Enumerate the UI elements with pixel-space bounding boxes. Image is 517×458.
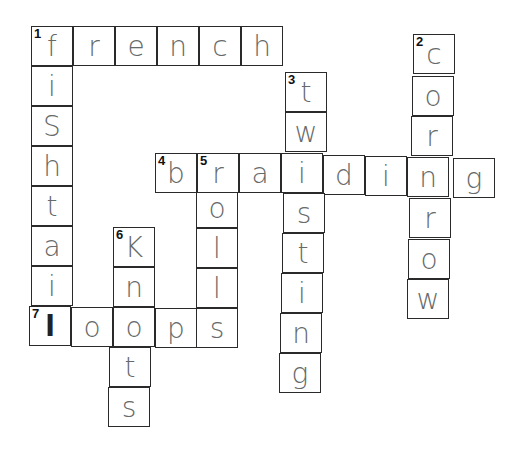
crossword-cell[interactable]: l: [196, 228, 238, 268]
crossword-cell[interactable]: n: [113, 267, 155, 307]
crossword-cell[interactable]: o: [71, 307, 113, 347]
cell-letter: s: [197, 312, 237, 346]
crossword-cell[interactable]: o: [412, 76, 454, 116]
crossword-cell[interactable]: 5r: [197, 153, 239, 193]
cell-letter: K: [114, 231, 154, 265]
cell-letter: r: [198, 157, 238, 191]
crossword-grid: 1frenchiShtai7loops6Kntsoll4b5raiding3tw…: [0, 0, 517, 458]
crossword-cell[interactable]: n: [280, 313, 322, 353]
cell-letter: g: [280, 357, 320, 391]
cell-letter: r: [74, 30, 114, 64]
crossword-cell[interactable]: s: [283, 193, 325, 233]
cell-letter: n: [281, 317, 321, 351]
cell-letter: i: [32, 70, 72, 104]
cell-letter: o: [409, 243, 449, 277]
cell-letter: g: [454, 162, 494, 196]
crossword-cell[interactable]: d: [323, 155, 365, 195]
cell-letter: w: [286, 116, 326, 150]
cell-letter: s: [109, 391, 149, 425]
crossword-cell[interactable]: 2c: [413, 34, 455, 74]
crossword-cell[interactable]: o: [196, 188, 238, 228]
crossword-cell[interactable]: t: [31, 186, 73, 226]
crossword-cell[interactable]: 7l: [29, 306, 71, 346]
cell-letter: o: [197, 192, 237, 226]
crossword-cell[interactable]: 6K: [113, 227, 155, 267]
crossword-cell[interactable]: g: [453, 158, 495, 198]
cell-letter: d: [324, 159, 364, 193]
crossword-cell[interactable]: g: [279, 353, 321, 393]
crossword-cell[interactable]: a: [239, 153, 281, 193]
cell-letter: l: [30, 310, 70, 344]
cell-letter: i: [282, 277, 322, 311]
crossword-cell[interactable]: 3t: [285, 72, 327, 112]
crossword-cell[interactable]: t: [282, 233, 324, 273]
cell-letter: i: [32, 270, 72, 304]
cell-letter: t: [110, 351, 150, 385]
cell-letter: s: [284, 197, 324, 231]
cell-letter: t: [283, 237, 323, 271]
crossword-cell[interactable]: w: [407, 279, 449, 319]
crossword-cell[interactable]: a: [31, 226, 73, 266]
crossword-cell[interactable]: t: [109, 347, 151, 387]
crossword-cell[interactable]: s: [108, 387, 150, 427]
cell-letter: t: [32, 190, 72, 224]
crossword-cell[interactable]: 1f: [31, 26, 73, 66]
crossword-cell[interactable]: i: [281, 153, 323, 193]
cell-letter: p: [156, 312, 196, 346]
crossword-cell[interactable]: c: [199, 26, 241, 66]
cell-letter: c: [414, 38, 454, 72]
crossword-cell[interactable]: r: [409, 198, 451, 238]
cell-letter: S: [32, 110, 72, 144]
crossword-cell[interactable]: o: [408, 239, 450, 279]
crossword-cell[interactable]: s: [196, 308, 238, 348]
crossword-cell[interactable]: w: [285, 112, 327, 152]
crossword-cell[interactable]: l: [196, 268, 238, 308]
crossword-cell[interactable]: i: [31, 266, 73, 306]
cell-letter: i: [282, 157, 322, 191]
cell-letter: w: [408, 283, 448, 317]
crossword-cell[interactable]: S: [31, 106, 73, 146]
cell-letter: e: [116, 30, 156, 64]
cell-letter: h: [242, 30, 282, 64]
cell-letter: c: [200, 30, 240, 64]
crossword-cell[interactable]: n: [407, 157, 449, 197]
cell-letter: r: [410, 202, 450, 236]
cell-letter: b: [156, 157, 196, 191]
crossword-cell[interactable]: r: [411, 116, 453, 156]
cell-letter: n: [408, 161, 448, 195]
cell-letter: f: [32, 30, 72, 64]
cell-letter: o: [72, 311, 112, 345]
cell-letter: l: [197, 232, 237, 266]
cell-letter: a: [32, 230, 72, 264]
cell-letter: l: [197, 272, 237, 306]
cell-letter: h: [32, 150, 72, 184]
crossword-cell[interactable]: n: [157, 26, 199, 66]
cell-letter: n: [114, 271, 154, 305]
crossword-cell[interactable]: i: [365, 156, 407, 196]
cell-letter: o: [114, 311, 154, 345]
crossword-cell[interactable]: r: [73, 26, 115, 66]
crossword-cell[interactable]: h: [31, 146, 73, 186]
crossword-cell[interactable]: e: [115, 26, 157, 66]
crossword-cell[interactable]: 4b: [155, 153, 197, 193]
crossword-cell[interactable]: p: [155, 308, 197, 348]
cell-letter: n: [158, 30, 198, 64]
crossword-cell[interactable]: i: [31, 66, 73, 106]
crossword-cell[interactable]: i: [281, 273, 323, 313]
crossword-cell[interactable]: o: [113, 307, 155, 347]
cell-letter: t: [286, 76, 326, 110]
cell-letter: o: [413, 80, 453, 114]
cell-letter: i: [366, 160, 406, 194]
cell-letter: a: [240, 157, 280, 191]
crossword-cell[interactable]: h: [241, 26, 283, 66]
cell-letter: r: [412, 120, 452, 154]
